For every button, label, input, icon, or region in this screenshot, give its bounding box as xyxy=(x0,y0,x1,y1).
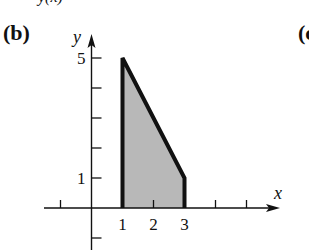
x-axis-label: x xyxy=(273,183,282,203)
region-plot: y(x) (b) (c 12351xy xyxy=(0,0,309,250)
panel-label: (b) xyxy=(3,20,30,45)
x-tick-label: 3 xyxy=(180,215,189,234)
top-caption-fragment: y(x) xyxy=(36,0,63,6)
x-tick-label: 2 xyxy=(149,215,158,234)
x-tick-label: 1 xyxy=(118,215,127,234)
y-tick-label: 5 xyxy=(77,49,86,68)
shaded-region xyxy=(123,58,185,208)
y-axis-label: y xyxy=(71,27,81,47)
y-tick-label: 1 xyxy=(77,169,86,188)
next-panel-label: (c xyxy=(298,20,309,45)
